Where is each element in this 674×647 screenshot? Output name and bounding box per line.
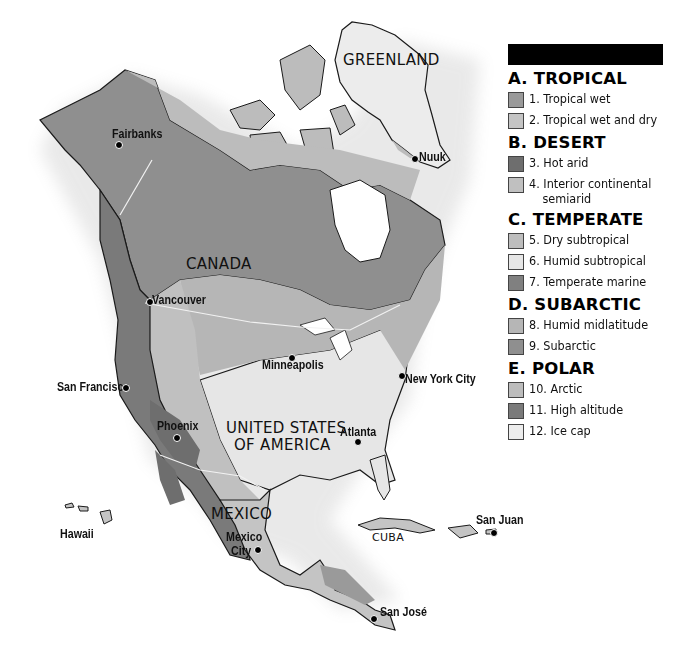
city-san-juan: San Juan [476, 513, 523, 526]
legend-item: 7. Temperate marine [508, 274, 668, 291]
city-san-jose: San José [380, 605, 427, 618]
region-hispaniola [448, 525, 478, 538]
city-atlanta: Atlanta [340, 425, 376, 438]
city-dot-atlanta [354, 438, 362, 446]
legend-item-label: 11. High altitude [529, 402, 623, 417]
city-mexico-line2: City [231, 544, 251, 557]
legend-item-label: 5. Dry subtropical [529, 232, 629, 247]
legend-swatch [508, 339, 524, 355]
city-dot-san-francisco [122, 384, 130, 392]
city-dot-fairbanks [115, 141, 123, 149]
legend-body: A. TROPICAL1. Tropical wet2. Tropical we… [508, 69, 668, 440]
label-canada: CANADA [186, 257, 252, 272]
region-hawaii [65, 503, 112, 524]
city-hawaii: Hawaii [60, 527, 94, 540]
city-mexico-line1: Mexico [226, 530, 262, 543]
legend-item-label: 4. Interior continentalsemiarid [529, 176, 651, 206]
legend-category-heading: B. DESERT [508, 133, 668, 152]
city-phoenix: Phoenix [157, 419, 198, 432]
legend-category-heading: D. SUBARCTIC [508, 295, 668, 314]
legend-title-bar [508, 44, 663, 65]
legend-category-heading: A. TROPICAL [508, 69, 668, 88]
legend-item-label-line2: semiarid [529, 191, 591, 206]
city-vancouver: Vancouver [152, 293, 206, 306]
legend-swatch [508, 92, 524, 108]
city-dot-san-jose [370, 615, 378, 623]
legend-item-label: 8. Humid midlatitude [529, 317, 648, 332]
legend-item: 12. Ice cap [508, 423, 668, 440]
legend-swatch [508, 275, 524, 291]
legend-swatch [508, 177, 524, 193]
legend-item: 5. Dry subtropical [508, 232, 668, 249]
legend-item: 1. Tropical wet [508, 91, 668, 108]
legend-item-label: 3. Hot arid [529, 155, 588, 170]
legend-swatch [508, 233, 524, 249]
legend-item-label: 2. Tropical wet and dry [529, 112, 657, 127]
label-usa-line1: UNITED STATES [226, 421, 346, 436]
city-dot-mexico-city [254, 546, 262, 554]
legend-item-label: 9. Subarctic [529, 338, 596, 353]
legend-swatch [508, 318, 524, 334]
legend-item: 4. Interior continentalsemiarid [508, 176, 668, 206]
legend-swatch [508, 382, 524, 398]
city-fairbanks: Fairbanks [112, 127, 162, 140]
legend-item: 2. Tropical wet and dry [508, 112, 668, 129]
city-dot-vancouver [146, 298, 154, 306]
legend-swatch [508, 424, 524, 440]
city-san-francisco: San Francisco [57, 380, 130, 393]
legend-category-heading: C. TEMPERATE [508, 210, 668, 229]
legend-item: 6. Humid subtropical [508, 253, 668, 270]
legend-item-label: 12. Ice cap [529, 423, 591, 438]
city-dot-nuuk [411, 155, 419, 163]
city-dot-san-juan [490, 529, 498, 537]
legend-item: 10. Arctic [508, 381, 668, 398]
city-dot-new-york [398, 372, 406, 380]
city-dot-minneapolis [288, 354, 296, 362]
legend-item-label: 7. Temperate marine [529, 274, 646, 289]
legend-item: 8. Humid midlatitude [508, 317, 668, 334]
city-nuuk: Nuuk [419, 150, 446, 163]
label-greenland: GREENLAND [343, 53, 440, 68]
legend-swatch [508, 254, 524, 270]
legend-swatch [508, 113, 524, 129]
legend-item-label: 10. Arctic [529, 381, 582, 396]
legend-item-label: 1. Tropical wet [529, 91, 610, 106]
city-new-york: New York City [405, 372, 476, 385]
label-usa-line2: OF AMERICA [234, 438, 330, 453]
legend-item: 9. Subarctic [508, 338, 668, 355]
legend: A. TROPICAL1. Tropical wet2. Tropical we… [508, 44, 668, 444]
label-mexico: MEXICO [211, 507, 272, 522]
legend-category-heading: E. POLAR [508, 359, 668, 378]
label-cuba: CUBA [372, 532, 404, 543]
city-dot-phoenix [173, 434, 181, 442]
legend-item: 3. Hot arid [508, 155, 668, 172]
legend-item: 11. High altitude [508, 402, 668, 419]
legend-swatch [508, 156, 524, 172]
legend-item-label: 6. Humid subtropical [529, 253, 646, 268]
legend-swatch [508, 403, 524, 419]
